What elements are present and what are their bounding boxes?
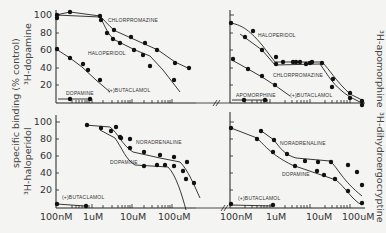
y-tick-60: 60 — [40, 44, 52, 55]
label-butaclamol: (+)BUTACLAMOL — [108, 87, 150, 93]
x-tick-1uM: 1uM — [83, 211, 103, 222]
ligand-label-dopamine: ³H-dopamine — [22, 23, 33, 85]
axis-break-icon — [196, 100, 230, 211]
figure-canvas: 100 80 60 40 20 CHLORPROMAZINE HALOPERID… — [0, 0, 386, 233]
y-tick-100: 100 — [34, 116, 52, 127]
panel-top-left: 100 80 60 40 20 CHLORPROMAZINE HALOPERID… — [34, 9, 196, 103]
ligand-label-haloperidol: ³H-haloperidol — [22, 127, 33, 195]
y-tick-20: 20 — [40, 184, 52, 195]
panel-top-right: HALOPERIDOL CHLORPROMAZINE (+)BUTACLAMOL… — [229, 10, 365, 107]
y-tick-40: 40 — [40, 62, 52, 73]
x-tick-100uM: 100uM — [342, 211, 374, 222]
label-chlorpromazine: CHLORPROMAZINE — [108, 17, 158, 23]
y-tick-20: 20 — [40, 79, 52, 90]
x-tick-10uM: 10uM — [306, 211, 332, 222]
x-tick-1uM: 1uM — [266, 211, 286, 222]
y-tick-40: 40 — [40, 167, 52, 178]
x-tick-100uM: 100uM — [158, 211, 190, 222]
label-apomorphine: APOMORPHINE — [236, 92, 276, 98]
label-dopamine: DOPAMINE — [282, 171, 310, 177]
x-tick-labels: 100nM 1uM 10uM 100uM 100nM 1uM 10uM 100u… — [40, 211, 374, 222]
curve-butaclamol — [232, 60, 290, 96]
label-haloperidol: HALOPERIDOL — [88, 50, 126, 56]
y-tick-80: 80 — [40, 27, 52, 38]
label-dopamine: DOPAMINE — [110, 159, 138, 165]
y-tick-80: 80 — [40, 133, 52, 144]
x-tick-10uM: 10uM — [120, 211, 146, 222]
label-butaclamol: (+)BUTACLAMOL — [238, 195, 280, 201]
panel-bottom-right: NORADRENALINE DOPAMINE (+)BUTACLAMOL — [229, 112, 365, 208]
curve-butaclamol — [57, 204, 85, 206]
curve-noradrenaline — [85, 125, 200, 198]
ligand-label-dihydroergocryptine: ³H-dihydroergocryptine — [375, 112, 386, 223]
ligand-label-apomorphine: ³H-apomorphine — [375, 30, 386, 108]
x-tick-100nM: 100nM — [40, 211, 72, 222]
label-butaclamol: (+)BUTACLAMOL — [290, 92, 332, 98]
label-noradrenaline: NORADRENALINE — [136, 139, 182, 145]
label-chlorpromazine: CHLORPROMAZINE — [273, 72, 323, 78]
y-tick-60: 60 — [40, 150, 52, 161]
label-noradrenaline: NORADRENALINE — [280, 140, 326, 146]
label-dopamine: DOPAMINE — [66, 90, 94, 96]
y-tick-100: 100 — [34, 9, 52, 20]
label-haloperidol: HALOPERIDOL — [258, 32, 296, 38]
label-butaclamol: (+)BUTACLAMOL — [62, 194, 104, 200]
x-tick-100nM: 100nM — [220, 211, 252, 222]
panel-bottom-left: 100 80 60 40 20 NORADRENALINE DOPAMINE (… — [34, 115, 200, 210]
y-axis-title: specific binding (% control) — [10, 38, 21, 168]
